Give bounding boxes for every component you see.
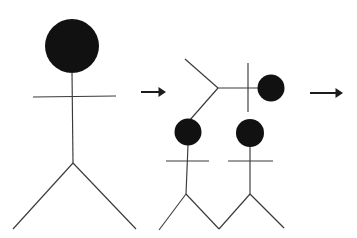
diagram-canvas <box>0 0 357 238</box>
head-blob-main <box>45 19 99 73</box>
head-blob-sub-right <box>236 119 264 147</box>
stick-figure-diagram <box>0 0 357 238</box>
detached-head-blob <box>258 75 285 102</box>
head-blob-sub-left <box>175 119 202 146</box>
